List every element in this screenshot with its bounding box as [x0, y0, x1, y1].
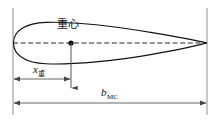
b-mc-dimension-label: bMC — [101, 87, 117, 98]
b-subscript: MC — [107, 93, 118, 101]
x-subscript: 重 — [38, 70, 45, 78]
center-of-gravity-label: 重心 — [57, 19, 79, 30]
b-symbol: b — [101, 86, 107, 98]
x-cg-dimension-label: x重 — [33, 64, 45, 75]
airfoil-cg-diagram: 重心 x重 bMC — [0, 0, 219, 127]
airfoil-outline — [14, 22, 207, 64]
